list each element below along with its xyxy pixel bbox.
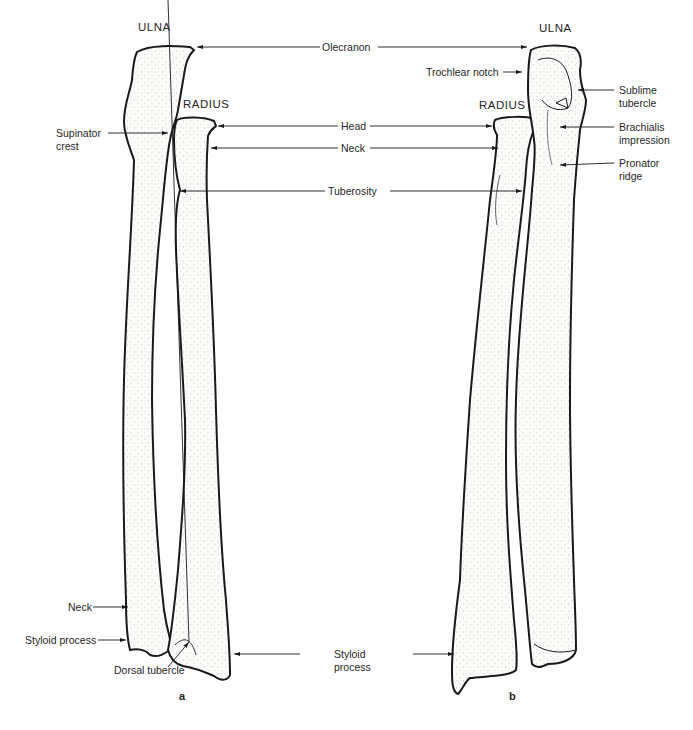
- label-supinator-line1: Supinator: [56, 127, 101, 140]
- label-styloid-process-a: Styloid process: [25, 634, 96, 647]
- panel-b-bones: [452, 46, 586, 694]
- label-tuberosity: Tuberosity: [328, 185, 377, 198]
- label-brachialis-line1: Brachialis: [619, 121, 670, 134]
- label-pronator-line1: Pronator: [619, 157, 659, 170]
- ulna-title-b: ULNA: [539, 22, 572, 34]
- label-process-line2: process: [334, 661, 371, 674]
- ulna-title-a: ULNA: [138, 21, 171, 33]
- label-tubercle-line2: tubercle: [619, 97, 657, 110]
- label-head: Head: [341, 120, 366, 133]
- label-styloid-line1: Styloid: [334, 648, 371, 661]
- panel-letter-a: a: [179, 690, 185, 702]
- label-styloid-process-shared: Styloid process: [334, 648, 371, 674]
- radius-a: [168, 117, 230, 679]
- label-supinator-crest: Supinator crest: [56, 127, 101, 153]
- panel-a-bones: [123, 46, 230, 680]
- panel-letter-b: b: [509, 690, 516, 702]
- label-trochlear-notch: Trochlear notch: [426, 66, 499, 79]
- radius-title-a: RADIUS: [183, 98, 229, 110]
- label-ridge-line2: ridge: [619, 170, 659, 183]
- label-impression-line2: impression: [619, 134, 670, 147]
- forearm-bones-diagram: [0, 0, 693, 730]
- label-dorsal-tubercle: Dorsal tubercle: [114, 664, 185, 677]
- label-sublime-line1: Sublime: [619, 84, 657, 97]
- label-sublime-tubercle: Sublime tubercle: [619, 84, 657, 110]
- label-neck: Neck: [341, 142, 365, 155]
- label-brachialis-impression: Brachialis impression: [619, 121, 670, 147]
- label-olecranon: Olecranon: [322, 41, 370, 54]
- label-neck-a: Neck: [68, 601, 92, 614]
- radius-title-b: RADIUS: [479, 99, 525, 111]
- label-pronator-ridge: Pronator ridge: [619, 157, 659, 183]
- label-crest-line2: crest: [56, 140, 101, 153]
